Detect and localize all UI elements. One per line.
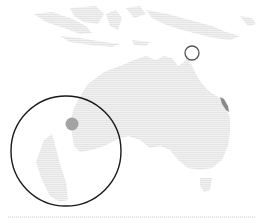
inset-landmass [36, 134, 68, 202]
new-guinea-landmass [146, 10, 256, 40]
inset-dot-marker[interactable] [66, 118, 79, 131]
australia-landmass [70, 56, 230, 170]
map-canvas[interactable] [0, 0, 260, 223]
tasmania-landmass [200, 178, 212, 192]
ring-marker[interactable] [185, 46, 199, 60]
indonesia-landmass [34, 6, 150, 47]
